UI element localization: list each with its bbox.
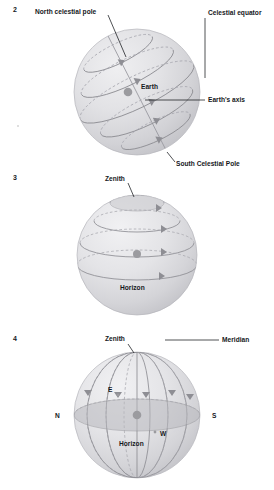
east-point-dot [117,394,120,397]
observer-dot-4 [133,411,142,420]
label-horizon-3: Horizon [120,284,145,291]
west-point-dot [154,431,157,434]
label-west: W [160,430,167,437]
scan-speck [17,125,19,127]
label-south-celestial-pole: South Celestial Pole [176,160,240,167]
panel-4-number: 4 [13,335,17,342]
label-east: E [108,386,113,393]
observer-dot-3 [133,250,141,258]
label-north: N [55,412,60,419]
label-earth: Earth [141,83,158,90]
label-south: S [212,412,217,419]
earth-dot [124,88,133,97]
label-horizon-4: Horizon [119,440,144,447]
panel-3-number: 3 [13,174,17,181]
panel-2-number: 2 [13,6,17,13]
label-zenith-3: Zenith [105,175,125,182]
label-north-celestial-pole: North celestial pole [35,8,97,16]
label-earths-axis: Earth's axis [208,96,245,103]
label-meridian: Meridian [222,336,249,343]
label-celestial-equator: Celestial equator [208,9,262,17]
label-zenith-4: Zenith [105,335,125,342]
celestial-sphere-2 [74,29,200,155]
celestial-sphere-figure: 2 [0,0,274,490]
